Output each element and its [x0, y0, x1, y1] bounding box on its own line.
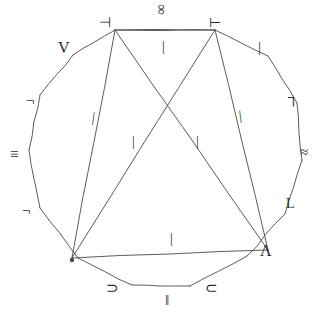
- corner-upper-left-symbol: ¬: [26, 93, 34, 108]
- chord-line: [215, 30, 268, 250]
- chord-line: [115, 30, 268, 250]
- tick-mark-center-right: |: [196, 135, 199, 149]
- polygon-edge: [78, 258, 132, 285]
- figure-canvas: ∞⊣⊢V|¬┐≡≈¬LΛ⊃‖⊂ ||||||: [0, 0, 331, 325]
- marked-point: [70, 258, 74, 262]
- geometry-drawing: [0, 0, 331, 325]
- tick-mark-top-center: |: [162, 40, 165, 54]
- tick-mark-center-left: |: [132, 135, 135, 149]
- wedge-symbol: Λ: [260, 243, 272, 259]
- infinity-symbol: ∞: [154, 4, 169, 15]
- polygon-edge: [190, 256, 247, 286]
- chord-line: [72, 250, 268, 258]
- subset-symbol: ⊂: [205, 281, 218, 296]
- approximately-equal-symbol: ≈: [300, 145, 308, 160]
- identical-to-symbol: ≡: [10, 147, 18, 162]
- tick-mark-upper-right: |: [258, 40, 261, 55]
- corner-lower-left-symbol: ¬: [22, 203, 30, 218]
- corner-upper-right-symbol: ┐: [288, 90, 299, 105]
- polygon-edge: [40, 55, 73, 95]
- parallel-symbol: ‖: [165, 293, 169, 308]
- polygon-edge: [29, 150, 40, 208]
- vertex-dot: [70, 258, 74, 262]
- polygon-edge: [40, 208, 78, 258]
- polygon-edge: [132, 285, 190, 286]
- ell-lower-right-symbol: L: [286, 197, 295, 211]
- polygon-edge: [73, 30, 115, 55]
- vee-symbol: V: [58, 40, 70, 56]
- superset-symbol: ⊃: [106, 281, 119, 296]
- turnstile-left-symbol: ⊣: [99, 16, 111, 30]
- chord-lines: [72, 29, 268, 258]
- turnstile-right-symbol: ⊢: [209, 16, 221, 30]
- tick-mark-bottom-center: |: [170, 232, 173, 246]
